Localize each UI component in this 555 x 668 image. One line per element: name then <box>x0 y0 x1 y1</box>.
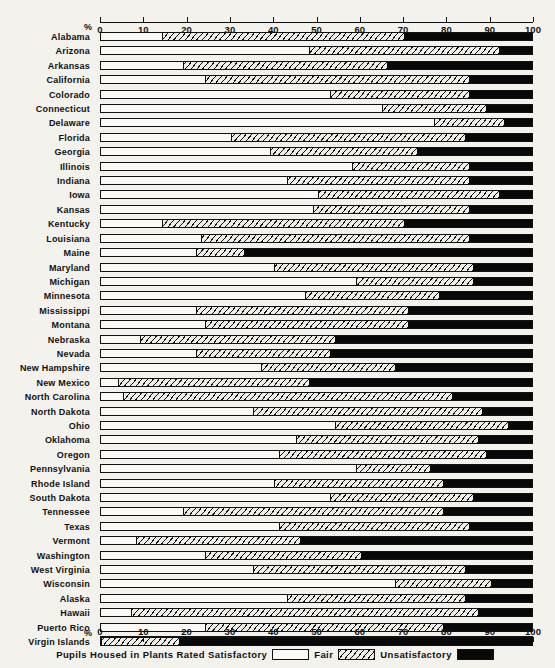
segment-satisfactory <box>101 163 352 170</box>
segment-unsatisfactory <box>452 393 533 400</box>
bar-row[interactable]: Tennessee <box>0 505 555 519</box>
x-tick-label-bottom-30: 30 <box>225 626 236 637</box>
segment-fair <box>279 451 487 458</box>
bar-row[interactable]: Oklahoma <box>0 433 555 447</box>
x-tick-top-50 <box>317 17 318 22</box>
bar-row[interactable]: Pennsylvania <box>0 462 555 476</box>
x-tick-label-bottom-50: 50 <box>311 626 322 637</box>
bar-row[interactable]: Mississippi <box>0 304 555 318</box>
segment-unsatisfactory <box>244 249 533 256</box>
x-tick-bottom-20 <box>187 637 188 642</box>
bar-row[interactable]: New Hampshire <box>0 361 555 375</box>
bar-row[interactable]: Vermont <box>0 534 555 548</box>
legend-swatch-fair <box>338 649 375 660</box>
bar-row[interactable]: Georgia <box>0 145 555 159</box>
bar-track <box>100 263 533 272</box>
bar-row[interactable]: Washington <box>0 549 555 563</box>
state-label: Vermont <box>0 534 90 548</box>
bar-track <box>100 75 533 84</box>
x-tick-bottom-0 <box>100 637 101 642</box>
x-tick-bottom-10 <box>143 637 144 642</box>
bar-row[interactable]: Oregon <box>0 448 555 462</box>
bar-row[interactable]: Alabama <box>0 30 555 44</box>
legend-label-unsatisfactory: Unsatisfactory <box>380 649 452 660</box>
segment-fair <box>162 220 404 227</box>
segment-satisfactory <box>101 105 382 112</box>
segment-unsatisfactory <box>430 465 533 472</box>
bar-row[interactable]: Nebraska <box>0 333 555 347</box>
bar-row[interactable]: Rhode Island <box>0 477 555 491</box>
bar-row[interactable]: Illinois <box>0 160 555 174</box>
bar-row[interactable]: Wisconsin <box>0 577 555 591</box>
x-tick-bottom-70 <box>403 637 404 642</box>
segment-fair <box>140 336 335 343</box>
bar-row[interactable]: Kansas <box>0 203 555 217</box>
bar-row[interactable]: Montana <box>0 318 555 332</box>
x-tick-top-80 <box>446 17 447 22</box>
bar-row[interactable]: Ohio <box>0 419 555 433</box>
segment-fair <box>274 264 473 271</box>
segment-satisfactory <box>101 235 201 242</box>
segment-fair <box>205 76 469 83</box>
x-tick-label-bottom-10: 10 <box>138 626 149 637</box>
state-label: New Hampshire <box>0 361 90 375</box>
bar-row[interactable]: Maine <box>0 246 555 260</box>
bar-track <box>100 435 533 444</box>
segment-satisfactory <box>101 47 309 54</box>
segment-fair <box>309 47 500 54</box>
bar-row[interactable]: South Dakota <box>0 491 555 505</box>
bar-row[interactable]: West Virginia <box>0 563 555 577</box>
x-tick-top-60 <box>360 17 361 22</box>
x-tick-bottom-50 <box>317 637 318 642</box>
segment-fair <box>162 33 404 40</box>
segment-fair <box>131 609 477 616</box>
state-label: North Carolina <box>0 390 90 404</box>
bar-row[interactable]: Nevada <box>0 347 555 361</box>
bar-row[interactable]: Florida <box>0 131 555 145</box>
segment-fair <box>287 595 465 602</box>
bar-row[interactable]: Colorado <box>0 88 555 102</box>
bar-row[interactable]: Iowa <box>0 188 555 202</box>
segment-fair <box>279 523 470 530</box>
bar-row[interactable]: Kentucky <box>0 217 555 231</box>
segment-fair <box>352 163 469 170</box>
bar-row[interactable]: Hawaii <box>0 606 555 620</box>
segment-unsatisfactory <box>469 163 533 170</box>
bar-track <box>100 363 533 372</box>
state-label: South Dakota <box>0 491 90 505</box>
bar-row[interactable]: Delaware <box>0 116 555 130</box>
bar-row[interactable]: New Mexico <box>0 376 555 390</box>
bar-row[interactable]: Connecticut <box>0 102 555 116</box>
bar-track <box>100 507 533 516</box>
segment-satisfactory <box>101 292 305 299</box>
bar-track <box>100 248 533 257</box>
bar-row[interactable]: Arkansas <box>0 59 555 73</box>
bar-track <box>100 61 533 70</box>
percent-symbol-bottom: % <box>84 628 92 638</box>
bar-row[interactable]: Louisiana <box>0 232 555 246</box>
segment-unsatisfactory <box>499 47 533 54</box>
bar-row[interactable]: California <box>0 73 555 87</box>
segment-unsatisfactory <box>465 595 533 602</box>
state-label: Texas <box>0 520 90 534</box>
bar-row[interactable]: North Carolina <box>0 390 555 404</box>
bar-row[interactable]: Indiana <box>0 174 555 188</box>
bar-track <box>100 536 533 545</box>
segment-unsatisfactory <box>499 191 533 198</box>
bar-row[interactable]: Texas <box>0 520 555 534</box>
segment-unsatisfactory <box>330 350 533 357</box>
segment-fair <box>183 62 387 69</box>
segment-satisfactory <box>101 336 140 343</box>
segment-fair <box>335 422 508 429</box>
bar-row[interactable]: Michigan <box>0 275 555 289</box>
segment-satisfactory <box>101 379 118 386</box>
segment-fair <box>287 177 469 184</box>
x-tick-top-70 <box>403 17 404 22</box>
bar-row[interactable]: Maryland <box>0 261 555 275</box>
bar-row[interactable]: Minnesota <box>0 289 555 303</box>
bar-row[interactable]: Alaska <box>0 592 555 606</box>
bar-row[interactable]: Arizona <box>0 44 555 58</box>
bar-row[interactable]: North Dakota <box>0 405 555 419</box>
bar-track <box>100 522 533 531</box>
bar-track <box>100 493 533 502</box>
